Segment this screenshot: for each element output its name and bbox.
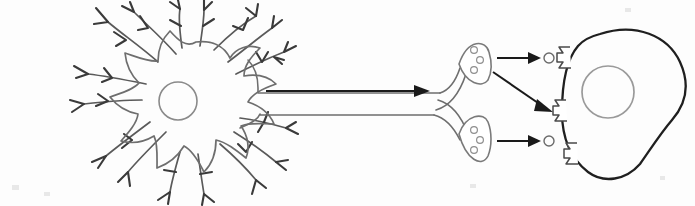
neuron-diagram-figure: [0, 0, 695, 206]
neuron-diagram-canvas: [0, 0, 695, 206]
